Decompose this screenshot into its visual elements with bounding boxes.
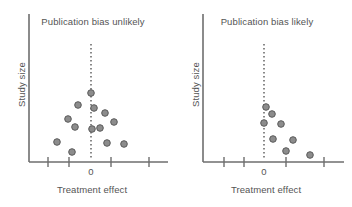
funnel-plot-figure: Publication bias unlikely Study size 0 T… (0, 0, 352, 207)
panel-publication-bias-unlikely: Publication bias unlikely Study size 0 T… (0, 0, 176, 207)
data-point (89, 126, 96, 133)
data-point (261, 120, 268, 127)
left-plot-title: Publication bias unlikely (18, 16, 168, 27)
data-point (290, 137, 297, 144)
data-point (75, 102, 82, 109)
data-point (111, 119, 118, 126)
right-y-axis-label: Study size (190, 62, 201, 107)
right-zero-tick-label: 0 (254, 166, 274, 177)
data-point (283, 148, 290, 155)
right-plot-title: Publication bias likely (192, 16, 342, 27)
data-point (263, 104, 270, 111)
data-point (269, 111, 276, 118)
data-point (69, 149, 76, 156)
data-point (121, 141, 128, 148)
left-x-axis-label: Treatment effect (12, 184, 172, 195)
right-data-points (261, 104, 314, 159)
left-y-axis-label: Study size (16, 62, 27, 107)
panel-publication-bias-likely: Publication bias likely Study size 0 Tre… (176, 0, 352, 207)
data-point (91, 105, 98, 112)
right-x-axis-label: Treatment effect (186, 184, 346, 195)
left-zero-tick-label: 0 (81, 166, 101, 177)
data-point (97, 125, 104, 132)
data-point (65, 116, 72, 123)
data-point (72, 124, 79, 131)
data-point (102, 110, 109, 117)
data-point (278, 121, 285, 128)
data-point (104, 140, 111, 147)
data-point (270, 136, 277, 143)
data-point (307, 152, 314, 159)
data-point (54, 139, 61, 146)
data-point (88, 90, 95, 97)
